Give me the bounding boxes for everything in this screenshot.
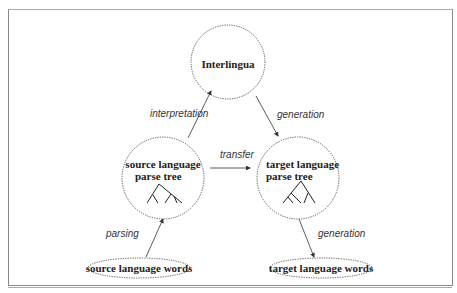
generation-bottom-label: generation xyxy=(318,228,366,239)
node-source-words: source language words xyxy=(86,258,193,278)
interpretation-label: interpretation xyxy=(150,108,209,119)
node-target-words: target language words xyxy=(269,258,374,278)
tree-icon xyxy=(283,181,315,203)
source-words-label: source language words xyxy=(86,262,193,274)
target-tree-label-1: target language xyxy=(266,158,339,170)
arrow-parsing xyxy=(146,219,163,257)
target-words-label: target language words xyxy=(269,262,374,274)
generation-top-label: generation xyxy=(277,109,325,120)
transfer-label: transfer xyxy=(220,149,255,160)
node-target-parse-tree: target language parse tree xyxy=(257,137,339,219)
arrow-generation-top xyxy=(256,96,278,136)
node-interlingua: Interlingua xyxy=(191,25,265,99)
source-tree-label-2: parse tree xyxy=(135,170,182,182)
interlingua-label: Interlingua xyxy=(201,58,255,70)
tree-icon xyxy=(147,184,182,203)
node-source-parse-tree: source language parse tree xyxy=(122,137,204,219)
target-tree-label-2: parse tree xyxy=(266,170,313,182)
diagram-canvas: Interlingua source language parse tree t… xyxy=(0,0,457,293)
parsing-label: parsing xyxy=(105,228,139,239)
source-tree-label-1: source language xyxy=(125,158,200,170)
arrow-generation-bottom xyxy=(299,219,314,257)
